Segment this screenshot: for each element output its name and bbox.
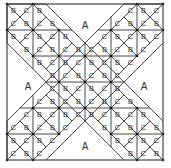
piece-label-b: B (115, 136, 120, 145)
piece-label-b: B (63, 32, 68, 41)
piece-label-c: C (24, 32, 30, 41)
piece-label-c: C (102, 58, 108, 67)
piece-label-c: C (63, 97, 69, 106)
seam-dot (136, 107, 139, 110)
piece-label-b: B (102, 97, 107, 106)
piece-label-b: B (50, 45, 55, 54)
seam-dot (84, 81, 87, 84)
piece-label-b: B (63, 84, 68, 93)
piece-label-c: C (11, 123, 17, 132)
seam-dot (58, 55, 61, 58)
piece-label-b: B (50, 97, 55, 106)
quilt-diagram: BCBCBCCBCBCBCBBCBCBCBCBCBCBCBCBCBCBCBCBC… (0, 0, 171, 168)
seam-dot (84, 107, 87, 110)
piece-label-a: A (141, 81, 148, 92)
seam-dot (84, 55, 87, 58)
seam-dot (32, 133, 35, 136)
piece-label-c: C (11, 19, 17, 28)
piece-label-b: B (128, 19, 133, 28)
piece-label-b: B (24, 45, 29, 54)
piece-label-b: B (141, 32, 146, 41)
piece-label-c: C (50, 84, 56, 93)
piece-label-c: C (76, 84, 82, 93)
piece-label-c: C (115, 97, 121, 106)
piece-label-c: C (141, 123, 147, 132)
piece-label-c: C (154, 136, 160, 145)
piece-label-c: C (50, 32, 56, 41)
piece-label-c: C (37, 149, 43, 158)
piece-label-b: B (24, 149, 29, 158)
piece-label-c: C (128, 58, 134, 67)
piece-label-c: C (63, 123, 69, 132)
piece-label-c: C (37, 45, 43, 54)
seam-dot (110, 29, 113, 32)
piece-label-c: C (115, 45, 121, 54)
piece-label-b: B (102, 45, 107, 54)
piece-label-c: C (154, 6, 160, 15)
piece-label-b: B (141, 136, 146, 145)
piece-label-b: B (154, 149, 159, 158)
piece-label-c: C (76, 110, 82, 119)
piece-label-c: C (102, 32, 108, 41)
piece-label-b: B (37, 58, 42, 67)
piece-label-c: C (115, 71, 121, 80)
seam-dot (136, 133, 139, 136)
piece-label-b: B (115, 58, 120, 67)
piece-label-c: C (128, 6, 134, 15)
piece-label-b: B (89, 58, 94, 67)
piece-label-b: B (63, 58, 68, 67)
piece-label-b: B (102, 71, 107, 80)
seam-dot (110, 55, 113, 58)
piece-label-b: B (154, 123, 159, 132)
piece-label-c: C (102, 110, 108, 119)
piece-label-c: C (115, 19, 121, 28)
piece-label-c: C (89, 97, 95, 106)
seam-dot (58, 29, 61, 32)
seam-dot (32, 55, 35, 58)
seam-dot (32, 29, 35, 32)
piece-label-c: C (50, 110, 56, 119)
seam-dot (58, 133, 61, 136)
piece-label-c: C (76, 58, 82, 67)
piece-label-c: C (89, 45, 95, 54)
piece-label-b: B (63, 110, 68, 119)
quilt-svg: BCBCBCCBCBCBCBBCBCBCBCBCBCBCBCBCBCBCBCBC… (0, 0, 171, 168)
piece-label-b: B (154, 19, 159, 28)
piece-label-c: C (37, 123, 43, 132)
seam-dot (58, 107, 61, 110)
piece-label-b: B (141, 110, 146, 119)
piece-label-c: C (141, 149, 147, 158)
piece-label-c: C (50, 58, 56, 67)
piece-label-c: C (24, 6, 30, 15)
seam-dot (110, 81, 113, 84)
seam-dot (110, 133, 113, 136)
piece-label-c: C (63, 45, 69, 54)
piece-label-c: C (37, 19, 43, 28)
piece-label-b: B (76, 45, 81, 54)
seam-dot (136, 55, 139, 58)
piece-label-c: C (63, 71, 69, 80)
piece-label-c: C (154, 32, 160, 41)
piece-label-c: C (128, 32, 134, 41)
piece-label-c: C (24, 110, 30, 119)
piece-label-b: B (115, 84, 120, 93)
piece-label-c: C (89, 71, 95, 80)
piece-label-c: C (115, 123, 121, 132)
piece-label-c: C (11, 149, 17, 158)
piece-label-b: B (24, 123, 29, 132)
piece-label-c: C (50, 136, 56, 145)
piece-label-b: B (141, 6, 146, 15)
piece-label-b: B (128, 97, 133, 106)
piece-label-b: B (115, 110, 120, 119)
piece-label-b: B (37, 32, 42, 41)
piece-label-b: B (50, 71, 55, 80)
piece-label-c: C (37, 97, 43, 106)
piece-label-b: B (11, 32, 16, 41)
piece-label-b: B (11, 136, 16, 145)
piece-label-a: A (82, 20, 89, 31)
piece-label-b: B (102, 123, 107, 132)
piece-label-b: B (37, 6, 42, 15)
piece-label-b: B (76, 97, 81, 106)
seam-dot (110, 107, 113, 110)
piece-label-c: C (141, 45, 147, 54)
